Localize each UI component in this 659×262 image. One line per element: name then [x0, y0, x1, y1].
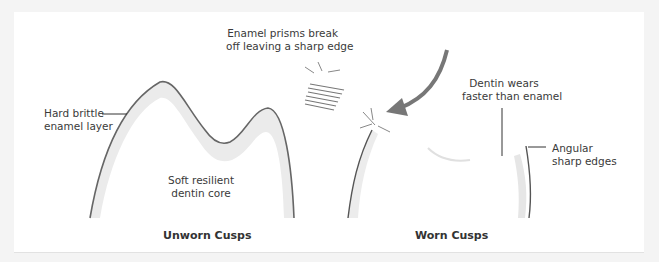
label-prisms-break: Enamel prisms break off leaving a sharp …	[226, 27, 338, 53]
worn-dentin-surface	[428, 148, 470, 161]
worn-left-enamel	[348, 130, 378, 218]
worn-right-outline	[526, 146, 530, 218]
fracture-spark-icon	[305, 62, 390, 132]
wear-arrow	[400, 50, 447, 108]
label-angular-edges: Angular sharp edges	[552, 142, 617, 168]
label-dentin-core: Soft resilient dentin core	[168, 174, 234, 200]
enamel-fragment-icon	[305, 84, 344, 110]
caption-unworn: Unworn Cusps	[163, 229, 251, 242]
arrow-head-icon	[386, 98, 408, 116]
label-enamel-layer: Hard brittle enamel layer	[44, 107, 100, 133]
caption-worn: Worn Cusps	[415, 229, 488, 242]
label-dentin-wears: Dentin wears faster than enamel	[462, 77, 546, 103]
worn-right-enamel	[514, 154, 526, 218]
